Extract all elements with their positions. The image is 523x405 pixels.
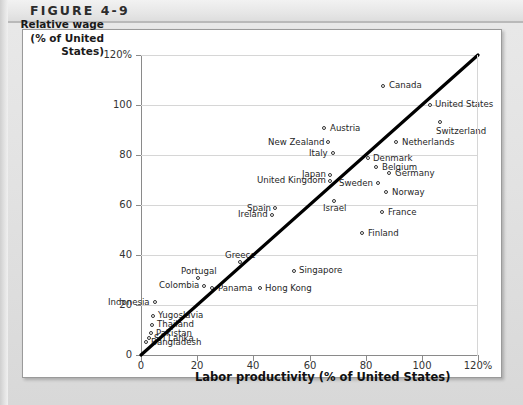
data-point [153, 300, 157, 304]
y-tick-label-120: 120% [98, 49, 132, 60]
data-point-label: France [388, 208, 417, 217]
data-point-label: Ireland [238, 210, 268, 219]
data-point [150, 323, 154, 327]
data-point-label: Indonesia [108, 298, 150, 307]
data-point-label: Germany [395, 169, 435, 178]
data-point [202, 284, 206, 288]
y-axis-title-line-2: (% of United [16, 32, 104, 46]
data-point [149, 331, 153, 335]
figure-shell: FIGURE 4-9 Relative wage (% of United St… [0, 0, 523, 405]
data-point [151, 314, 155, 318]
data-point-label: Israel [323, 204, 347, 213]
x-tick-label-40: 40 [233, 360, 273, 371]
data-point-label: Switzerland [436, 127, 486, 136]
x-axis-title: Labor productivity (% of United States) [195, 370, 450, 384]
data-point-label: Bangladesh [151, 338, 201, 347]
y-tick-label-100: 100 [98, 99, 132, 110]
data-point-label: Sweden [339, 179, 373, 188]
gridline-y-20 [141, 305, 478, 306]
y-tick-label-80: 80 [98, 149, 132, 160]
data-point-label: Norway [392, 188, 425, 197]
data-point [380, 210, 384, 214]
x-tick-label-60: 60 [290, 360, 330, 371]
data-point-label: New Zealand [268, 138, 324, 147]
data-point-label: Panama [218, 284, 252, 293]
y-tick-label-0: 0 [98, 349, 132, 360]
data-point [292, 269, 296, 273]
gridline-y-40 [141, 255, 478, 256]
y-axis-title-line-1: Relative wage [16, 18, 104, 32]
data-point [144, 340, 148, 344]
data-point-label: United States [435, 100, 493, 109]
gridline-y-120 [141, 55, 478, 56]
y-axis-title-line-3: States) [16, 45, 104, 59]
data-point-label: United Kingdom [257, 176, 326, 185]
figure-number-label: FIGURE 4-9 [30, 3, 130, 18]
y-tick-label-60: 60 [98, 199, 132, 210]
data-point-label: Hong Kong [265, 284, 312, 293]
x-tick-label-0: 0 [121, 360, 161, 371]
data-point-label: Italy [309, 149, 328, 158]
data-point-label: Colombia [159, 281, 199, 290]
data-point-label: Netherlands [402, 138, 454, 147]
data-point-label: Canada [389, 81, 422, 90]
y-tick-label-40: 40 [98, 249, 132, 260]
gridline-y-60 [141, 205, 478, 206]
x-tick-label-20: 20 [177, 360, 217, 371]
data-point [438, 120, 442, 124]
data-point-label: Finland [368, 229, 399, 238]
x-tick-label-80: 80 [346, 360, 386, 371]
x-tick-label-120: 120% [458, 360, 498, 371]
data-point-label: Austria [330, 124, 360, 133]
data-point-label: Singapore [299, 266, 342, 275]
page-left-spine [0, 0, 8, 405]
y-axis-title: Relative wage (% of United States) [16, 18, 104, 59]
data-point-label: Portugal [181, 267, 217, 276]
data-point [328, 179, 332, 183]
data-point-label: Greece [225, 251, 256, 260]
data-point [328, 173, 332, 177]
plot-right-edge [477, 55, 478, 356]
data-point [428, 103, 432, 107]
x-tick-label-100: 100 [402, 360, 442, 371]
